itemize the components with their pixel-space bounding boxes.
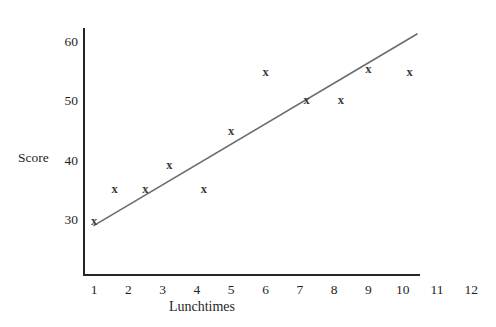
y-tick-label: 30	[52, 213, 78, 227]
x-tick-label: 10	[392, 283, 414, 297]
data-point-marker: x	[139, 183, 151, 195]
x-axis-title-text: Lunchtimes	[169, 299, 235, 314]
x-tick-label: 12	[460, 283, 482, 297]
x-tick-label: 6	[255, 283, 277, 297]
y-axis-line	[83, 28, 85, 276]
x-tick-label: 3	[152, 283, 174, 297]
x-axis-title: Lunchtimes	[0, 300, 496, 314]
scatter-chart-figure: Score Lunchtimes 30405060 12345678910111…	[0, 0, 496, 327]
x-tick-label: 2	[117, 283, 139, 297]
y-axis-title: Score	[18, 151, 49, 165]
x-tick-label: 9	[357, 283, 379, 297]
x-tick-label: 4	[186, 283, 208, 297]
data-point-marker: x	[198, 183, 210, 195]
x-tick-label: 5	[220, 283, 242, 297]
data-point-marker: x	[109, 183, 121, 195]
y-tick-label: 60	[52, 35, 78, 49]
data-point-marker: x	[335, 94, 347, 106]
data-point-marker: x	[362, 63, 374, 75]
x-tick-label: 7	[289, 283, 311, 297]
x-axis-line	[83, 274, 420, 276]
y-tick-label: 50	[52, 94, 78, 108]
data-point-marker: x	[260, 66, 272, 78]
x-tick-label: 11	[426, 283, 448, 297]
x-tick-label: 1	[83, 283, 105, 297]
data-point-marker: x	[404, 66, 416, 78]
data-point-marker: x	[225, 125, 237, 137]
data-point-marker: x	[301, 94, 313, 106]
data-point-marker: x	[88, 215, 100, 227]
y-tick-label: 40	[52, 154, 78, 168]
x-tick-label: 8	[323, 283, 345, 297]
data-point-marker: x	[163, 159, 175, 171]
